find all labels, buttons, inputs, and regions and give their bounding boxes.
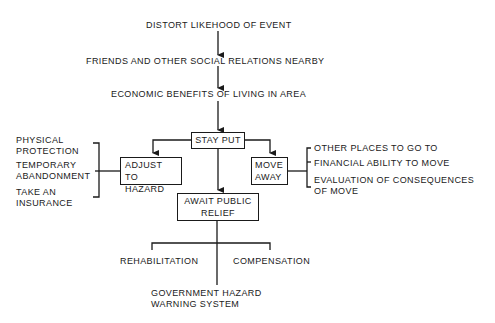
chain-economic-benefits: ECONOMIC BENEFITS OF LIVING IN AREA <box>111 89 306 100</box>
stay-put-label: STAY PUT <box>195 135 241 145</box>
relief-compensation: COMPENSATION <box>233 256 310 267</box>
move-line2: AWAY <box>255 171 284 183</box>
await-line1: AWAIT PUBLIC <box>178 195 258 207</box>
chain-social-relations: FRIENDS AND OTHER SOCIAL RELATIONS NEARB… <box>86 56 324 67</box>
factor-of-move: OF MOVE <box>314 186 358 197</box>
await-public-relief-box: AWAIT PUBLIC RELIEF <box>177 193 259 221</box>
adjust-to-hazard-box: ADJUST TO HAZARD <box>120 157 182 185</box>
adjust-line2: HAZARD <box>125 183 177 195</box>
move-away-box: MOVE AWAY <box>251 157 288 185</box>
option-line: PHYSICAL <box>16 135 79 146</box>
factor-other-places: OTHER PLACES TO GO TO <box>314 143 438 154</box>
await-line2: RELIEF <box>178 207 258 219</box>
option-line: TAKE AN <box>16 187 73 198</box>
option-take-insurance: TAKE AN INSURANCE <box>16 187 73 209</box>
adjust-line1: ADJUST TO <box>125 159 177 183</box>
option-line: TEMPORARY <box>16 160 90 171</box>
option-physical-protection: PHYSICAL PROTECTION <box>16 135 79 157</box>
move-line1: MOVE <box>255 159 284 171</box>
factor-evaluation: EVALUATION OF CONSEQUENCES <box>314 175 474 186</box>
option-line: PROTECTION <box>16 146 79 157</box>
option-temporary-abandonment: TEMPORARY ABANDONMENT <box>16 160 90 182</box>
stay-put-box: STAY PUT <box>191 132 245 149</box>
relief-government-warning-line1: GOVERNMENT HAZARD <box>151 288 262 299</box>
option-line: ABANDONMENT <box>16 171 90 182</box>
factor-financial-ability: FINANCIAL ABILITY TO MOVE <box>314 158 450 169</box>
option-line: INSURANCE <box>16 198 73 209</box>
relief-government-warning-line2: WARNING SYSTEM <box>151 299 239 310</box>
relief-rehabilitation: REHABILITATION <box>120 256 198 267</box>
chain-distort-likelihood: DISTORT LIKEHOOD OF EVENT <box>146 20 292 31</box>
